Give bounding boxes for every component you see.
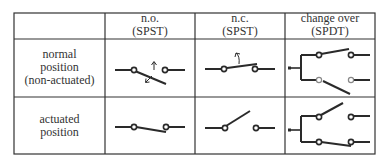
spdt-actuated-symbol — [288, 103, 370, 146]
nc-normal-symbol — [205, 64, 275, 72]
header-nc: n.c. (SPST) — [195, 12, 285, 38]
nc-actuated-symbol — [205, 111, 275, 131]
row-label-actuated: actuated position — [14, 113, 105, 139]
row-label-line: (non-actuated) — [14, 74, 105, 87]
spdt-normal-symbol — [288, 49, 370, 94]
header-changeover-line2: (SPDT) — [285, 25, 375, 38]
curved-arrow-icon — [235, 53, 240, 64]
row-label-line: position — [14, 126, 105, 139]
no-actuated-symbol — [115, 124, 185, 132]
row-label-normal: normal position (non-actuated) — [14, 48, 105, 87]
header-nc-line2: (SPST) — [195, 25, 285, 38]
header-no: n.o. (SPST) — [105, 12, 195, 38]
no-normal-symbol — [115, 67, 185, 84]
header-changeover: change over (SPDT) — [285, 12, 375, 38]
header-no-line2: (SPST) — [105, 25, 195, 38]
